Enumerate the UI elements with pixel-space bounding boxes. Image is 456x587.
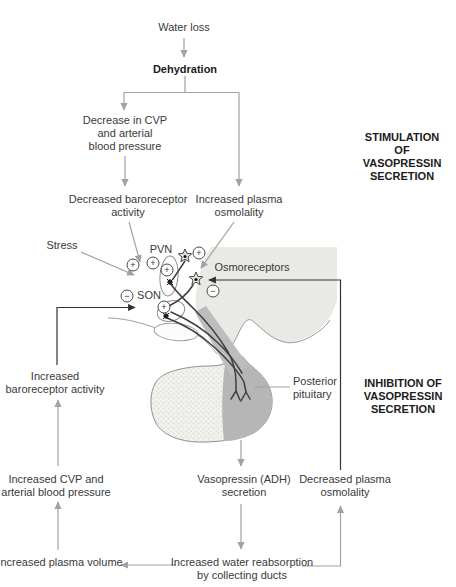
branch-connector xyxy=(124,76,239,93)
heading-stimulation: STIMULATION OF VASOPRESSIN SECRETION xyxy=(363,131,442,183)
vasopressin-regulation-diagram: Water loss Dehydration Decrease in CVP a… xyxy=(0,0,456,587)
heading-inhibition: INHIBITION OF VASOPRESSIN SECRETION xyxy=(364,377,443,416)
minus-icon: − xyxy=(121,290,134,303)
label-increased-baroreceptor: Increased baroreceptor activity xyxy=(5,370,104,396)
label-osmoreceptors: Osmoreceptors xyxy=(214,261,289,274)
label-decreased-baroreceptor: Decreased baroreceptor activity xyxy=(69,193,188,219)
label-dehydration: Dehydration xyxy=(153,63,217,76)
arrow-baroreceptor-son xyxy=(57,308,135,366)
label-son: SON xyxy=(137,289,161,302)
label-water-reabsorption: Increased water reabsorption by collecti… xyxy=(171,556,313,582)
plus-icon: + xyxy=(127,259,140,272)
plus-icon: + xyxy=(193,247,206,260)
neuron-star-dot xyxy=(184,255,187,258)
label-pvn: PVN xyxy=(150,243,173,256)
label-decrease-cvp: Decrease in CVP and arterial blood press… xyxy=(83,114,167,153)
label-stress: Stress xyxy=(46,239,77,252)
plus-icon: + xyxy=(147,257,160,270)
arrow-baroreceptor-pvn xyxy=(129,222,140,262)
label-increased-plasma-osmolality: Increased plasma osmolality xyxy=(196,193,283,219)
plus-icon: + xyxy=(158,301,171,314)
osmoreceptor-star-dot xyxy=(194,278,197,281)
label-decreased-plasma-osmolality: Decreased plasma osmolality xyxy=(299,473,391,499)
minus-icon: − xyxy=(207,285,220,298)
label-vasopressin-secretion: Vasopressin (ADH) secretion xyxy=(197,473,290,499)
label-posterior-pituitary: Posterior pituitary xyxy=(293,375,337,401)
label-water-loss: Water loss xyxy=(158,21,210,34)
label-increased-cvp: Increased CVP and arterial blood pressur… xyxy=(1,473,110,499)
plus-icon: + xyxy=(161,264,174,277)
label-increased-plasma-volume: Increased plasma volume xyxy=(0,556,123,569)
optic-chiasm-outline xyxy=(153,321,199,343)
